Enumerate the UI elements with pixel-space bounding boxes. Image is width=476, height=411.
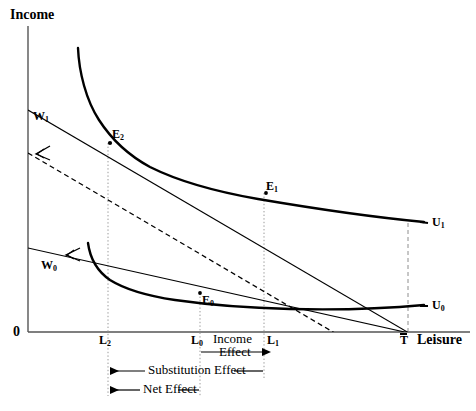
axes (28, 26, 470, 332)
w0-letter: W (41, 258, 53, 272)
e2-sub: 2 (120, 133, 124, 142)
curve-label-U1: U1 (432, 216, 445, 228)
e1-letter: E (266, 179, 274, 193)
l1-sub: 1 (275, 339, 279, 348)
guide-lines (108, 143, 408, 396)
total-time-label: T (400, 334, 408, 346)
u0-sub: 0 (441, 304, 445, 313)
u1-letter: U (432, 215, 441, 229)
point-label-E0: E0 (202, 294, 214, 306)
diagram-canvas: Income 0 T Leisure W1 W0 E2 E1 E0 U1 U0 … (0, 0, 476, 411)
l2-sub: 2 (107, 339, 111, 348)
indifference-curve-U1 (78, 48, 424, 222)
u0-letter: U (432, 298, 441, 312)
e1-sub: 1 (274, 185, 278, 194)
tick-label-L2: L2 (99, 334, 111, 346)
leader-U1 (420, 222, 428, 223)
e2-letter: E (112, 127, 120, 141)
budget-line-W1 (28, 110, 409, 333)
e0-letter: E (202, 293, 210, 307)
l0-letter: L (191, 333, 199, 347)
l2-letter: L (99, 333, 107, 347)
budget-line-W0 (28, 248, 409, 333)
tick-label-L1: L1 (267, 334, 279, 346)
substitution-effect-label: Substitution Effect (148, 363, 246, 376)
curve-label-leaders (420, 222, 428, 306)
compensated-line-arrow (36, 146, 50, 160)
t-bar-glyph: T (400, 334, 408, 346)
x-axis-title: Leisure (417, 333, 462, 347)
equilibrium-points (108, 141, 268, 295)
l0-sub: 0 (199, 339, 203, 348)
e0-sub: 0 (210, 299, 214, 308)
point-label-E1: E1 (266, 180, 278, 192)
point-label-E2: E2 (112, 128, 124, 140)
indifference-curves (78, 48, 424, 309)
l1-letter: L (267, 333, 275, 347)
overbar (400, 333, 407, 335)
origin-label: 0 (13, 325, 20, 339)
income-effect-label-line2: Effect (219, 345, 251, 358)
tick-label-L0: L0 (191, 334, 203, 346)
net-effect-label: Net Effect (143, 382, 197, 395)
budget-line-label-W1: W1 (33, 110, 49, 122)
t-letter: T (400, 333, 408, 347)
y-axis-title: Income (10, 8, 54, 22)
curve-label-U0: U0 (432, 299, 445, 311)
u1-sub: 1 (441, 221, 445, 230)
w1-sub: 1 (45, 115, 49, 124)
point-E2 (108, 141, 112, 145)
budget-line-label-W0: W0 (41, 259, 57, 271)
w1-letter: W (33, 109, 45, 123)
w0-sub: 0 (53, 264, 57, 273)
